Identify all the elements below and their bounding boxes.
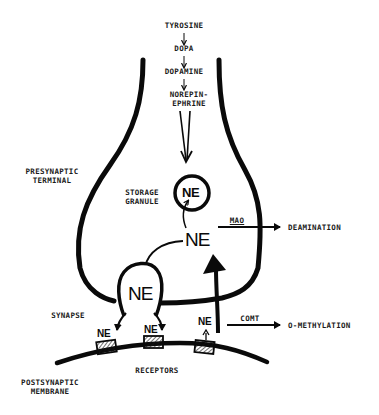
label-postsynaptic: POSTSYNAPTIC xyxy=(16,378,84,387)
reuptake-arrow-head xyxy=(203,254,226,274)
label-norepinephrine-1: NOREPIN- xyxy=(164,90,214,99)
label-receptors: RECEPTORS xyxy=(130,366,184,375)
label-deamination: DEAMINATION xyxy=(288,223,350,232)
receptor-ne-3: NE xyxy=(198,316,211,327)
receptor-release-arrow xyxy=(203,330,209,340)
label-norepinephrine-2: EPHRINE xyxy=(164,99,214,108)
label-dopamine: DOPAMINE xyxy=(158,67,210,76)
receptor-ne-1: NE xyxy=(97,328,110,339)
receptor-3 xyxy=(194,340,214,354)
label-presynaptic: PRESYNAPTIC xyxy=(22,167,82,176)
receptor-ne-2: NE xyxy=(144,324,157,335)
label-storage: STORAGE xyxy=(121,188,163,197)
ne-to-granule-arrow xyxy=(180,111,192,162)
ne-synapse-diagram: TYROSINE DOPA DOPAMINE NOREPIN- EPHRINE … xyxy=(0,0,379,415)
vesicle-ne: NE xyxy=(128,283,152,305)
label-tyrosine: TYROSINE xyxy=(162,21,206,30)
label-membrane: MEMBRANE xyxy=(16,387,84,396)
label-comt: COMT xyxy=(237,314,263,323)
receptor-2 xyxy=(144,336,163,348)
receptor-1 xyxy=(96,340,116,355)
granule-ne: NE xyxy=(182,185,199,200)
label-terminal: TERMINAL xyxy=(22,176,82,185)
label-synapse: SYNAPSE xyxy=(48,311,88,320)
diagram-graphics xyxy=(0,0,379,415)
label-mao: MAO xyxy=(226,216,248,225)
label-o-methylation: O-METHYLATION xyxy=(288,321,358,330)
reuptake-arrow-shaft xyxy=(216,268,218,333)
label-dopa: DOPA xyxy=(162,44,206,53)
cytoplasm-ne: NE xyxy=(185,229,209,251)
label-granule: GRANULE xyxy=(121,197,163,206)
